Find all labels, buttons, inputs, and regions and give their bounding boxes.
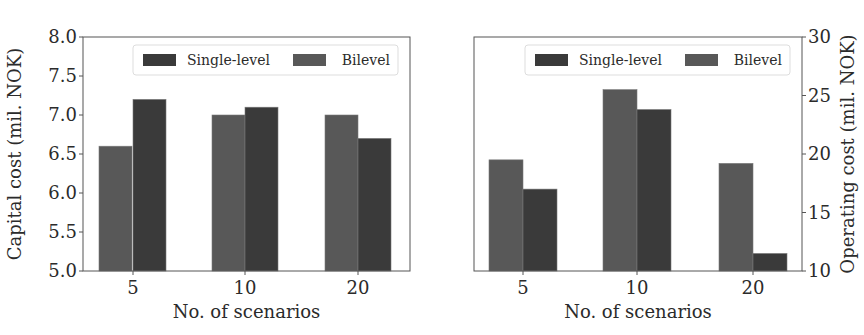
bar-bilevel-20 — [325, 115, 358, 271]
bar-bilevel-10 — [212, 115, 245, 271]
legend-label-bilevel: Bilevel — [342, 52, 391, 68]
bar-bilevel-10 — [603, 90, 637, 271]
x-tick-label: 5 — [517, 277, 528, 298]
y-tick-label: 5.0 — [48, 260, 77, 281]
capital-cost-panel: 5.05.56.06.57.07.58.051020No. of scenari… — [4, 26, 410, 322]
x-axis-label: No. of scenarios — [564, 301, 712, 322]
y-tick-label: 8.0 — [48, 26, 77, 47]
bar-bilevel-5 — [99, 146, 132, 271]
y-tick-label: 6.0 — [48, 182, 77, 203]
x-tick-label: 5 — [127, 277, 138, 298]
y-tick-label: 5.5 — [48, 221, 77, 242]
bar-single-level-20 — [753, 253, 787, 271]
y-tick-label: 15 — [808, 202, 831, 223]
y-tick-label: 7.0 — [48, 104, 77, 125]
bar-single-level-10 — [245, 107, 278, 271]
legend-swatch-bilevel — [685, 54, 718, 66]
y-tick-label: 7.5 — [48, 65, 77, 86]
x-tick-label: 10 — [626, 277, 649, 298]
bar-single-level-20 — [358, 138, 391, 271]
x-tick-label: 20 — [742, 277, 765, 298]
x-axis-label: No. of scenarios — [173, 301, 321, 322]
bar-bilevel-20 — [719, 163, 753, 271]
legend-label-single-level: Single-level — [187, 52, 270, 68]
x-tick-label: 20 — [347, 277, 370, 298]
bar-single-level-10 — [637, 110, 671, 271]
legend-swatch-single-level — [535, 54, 568, 66]
x-tick-label: 10 — [234, 277, 257, 298]
bar-chart-pair: 5.05.56.06.57.07.58.051020No. of scenari… — [0, 0, 864, 335]
y-tick-label: 25 — [808, 85, 831, 106]
y-tick-label: 30 — [808, 26, 831, 47]
y-tick-label: 20 — [808, 143, 831, 164]
y-axis-label: Operating cost (mil. NOK) — [837, 34, 858, 273]
legend-swatch-bilevel — [293, 54, 326, 66]
figure: 5.05.56.06.57.07.58.051020No. of scenari… — [0, 0, 864, 335]
y-tick-label: 10 — [808, 260, 831, 281]
y-axis-label: Capital cost (mil. NOK) — [4, 48, 25, 260]
bar-single-level-5 — [133, 99, 166, 271]
legend-swatch-single-level — [143, 54, 176, 66]
y-tick-label: 6.5 — [48, 143, 77, 164]
legend-label-single-level: Single-level — [579, 52, 662, 68]
operating-cost-panel: 101520253051020No. of scenariosOperating… — [474, 26, 858, 322]
bar-single-level-5 — [523, 189, 557, 271]
bar-bilevel-5 — [489, 160, 523, 271]
legend-label-bilevel: Bilevel — [734, 52, 783, 68]
